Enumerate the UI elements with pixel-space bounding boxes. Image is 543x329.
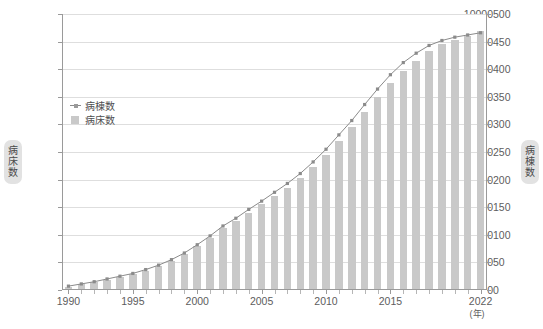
line-marker [105, 277, 108, 280]
x-axis-tick [275, 290, 276, 294]
line-marker [337, 133, 340, 136]
x-axis-tick [236, 290, 237, 294]
x-axis-tick [378, 290, 379, 294]
x-axis-tick-label: 2000 [186, 295, 209, 307]
x-axis-tick [159, 290, 160, 294]
x-axis-tick-label: 2010 [314, 295, 337, 307]
y-axis-right-tick-label: 450 [493, 36, 523, 48]
x-axis-tick-label: 2005 [250, 295, 273, 307]
line-marker [466, 33, 469, 36]
x-axis-tick-label: 1990 [57, 295, 80, 307]
line-marker [363, 103, 366, 106]
line-marker [93, 280, 96, 283]
line-path [68, 33, 480, 286]
y-axis-right-line [486, 14, 487, 290]
x-axis-tick [249, 290, 250, 294]
x-axis-tick-label: 2022 [469, 295, 492, 307]
x-axis-tick [455, 290, 456, 294]
line-marker [260, 200, 263, 203]
square-marker-icon [70, 114, 81, 125]
y-axis-title-right-char-0: 病 [523, 145, 537, 156]
y-axis-title-left-char-2: 数 [6, 167, 20, 178]
line-marker [118, 275, 121, 278]
y-axis-title-right-char-2: 数 [523, 167, 537, 178]
plot-area [62, 14, 487, 290]
x-axis-tick-label: 2015 [379, 295, 402, 307]
y-axis-right-tick [487, 14, 491, 15]
y-axis-right-tick [487, 97, 491, 98]
x-axis-tick [403, 290, 404, 294]
y-axis-left-tick [58, 290, 62, 291]
x-axis-tick [146, 290, 147, 294]
y-axis-right-tick-label: 50 [493, 256, 523, 268]
x-axis-tick [365, 290, 366, 294]
legend-label-byosusu: 病床数 [85, 112, 115, 127]
line-marker [131, 272, 134, 275]
line-marker [196, 243, 199, 246]
y-axis-right-tick-label: 200 [493, 174, 523, 186]
line-marker [415, 52, 418, 55]
y-axis-right-tick [487, 262, 491, 263]
line-marker [299, 172, 302, 175]
line-marker [312, 160, 315, 163]
x-axis-tick [81, 290, 82, 294]
line-marker [324, 148, 327, 151]
y-axis-title-right-char-1: 棟 [523, 156, 537, 167]
y-axis-right-tick-label: 250 [493, 146, 523, 158]
x-axis-tick [313, 290, 314, 294]
line-marker [440, 39, 443, 42]
y-axis-right-tick-label: 0 [493, 284, 523, 296]
x-axis-tick [94, 290, 95, 294]
x-axis-tick [429, 290, 430, 294]
x-axis-unit-label: (年) [470, 307, 485, 320]
x-axis-tick [287, 290, 288, 294]
line-marker [221, 224, 224, 227]
y-axis-right-tick-label: 100 [493, 229, 523, 241]
y-axis-right-tick-label: 300 [493, 118, 523, 130]
y-axis-right-tick [487, 42, 491, 43]
x-axis-tick [300, 290, 301, 294]
line-marker [157, 264, 160, 267]
y-axis-right-tick-label: 150 [493, 201, 523, 213]
line-marker [286, 182, 289, 185]
x-axis-tick [171, 290, 172, 294]
x-axis-tick [107, 290, 108, 294]
y-axis-right-tick [487, 124, 491, 125]
chart-legend: 病棟数 病床数 [70, 99, 115, 127]
line-marker [273, 191, 276, 194]
x-axis-tick [416, 290, 417, 294]
y-axis-right-tick [487, 235, 491, 236]
y-axis-title-left: 病 床 数 [4, 140, 22, 184]
x-axis-tick-label: 1995 [121, 295, 144, 307]
y-axis-right-tick [487, 69, 491, 70]
x-axis-tick [210, 290, 211, 294]
y-axis-title-left-char-1: 床 [6, 156, 20, 167]
chart-container: 病 床 数 病 棟 数 0100020003000400050006000700… [0, 0, 543, 329]
line-marker [170, 258, 173, 261]
y-axis-right-tick-label: 400 [493, 63, 523, 75]
y-axis-title-right: 病 棟 数 [521, 140, 539, 184]
line-marker [453, 36, 456, 39]
x-axis-tick [352, 290, 353, 294]
y-axis-right-tick [487, 207, 491, 208]
x-axis-tick [120, 290, 121, 294]
x-axis-tick [339, 290, 340, 294]
y-axis-right-tick [487, 152, 491, 153]
x-axis-tick [442, 290, 443, 294]
line-marker [402, 61, 405, 64]
line-marker [389, 73, 392, 76]
line-marker-icon [70, 100, 81, 111]
y-axis-left-line [62, 14, 63, 290]
line-marker [234, 217, 237, 220]
line-marker [209, 234, 212, 237]
legend-label-byotousu: 病棟数 [85, 98, 115, 113]
x-axis-line [62, 289, 487, 290]
line-marker [350, 119, 353, 122]
line-marker [144, 268, 147, 271]
x-axis-tick [184, 290, 185, 294]
line-marker [427, 44, 430, 47]
y-axis-right-tick [487, 180, 491, 181]
line-marker [247, 208, 250, 211]
line-marker [183, 251, 186, 254]
x-axis-tick [223, 290, 224, 294]
